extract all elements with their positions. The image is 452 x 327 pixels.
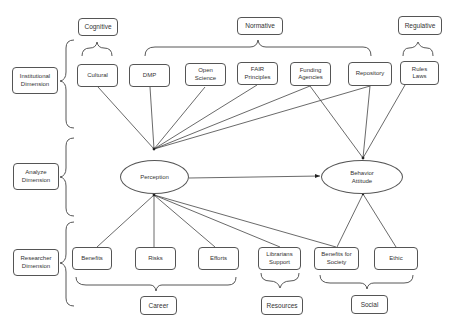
edge-perception-librarians xyxy=(154,195,280,247)
edge-perception-efforts xyxy=(154,195,215,247)
regulative-category: Regulative xyxy=(398,16,442,35)
behavior-attitude-ellipse: Behavior Attitude xyxy=(321,160,403,194)
ethic-box: Ethic xyxy=(374,247,418,270)
perception-ellipse: Perception xyxy=(120,160,189,194)
edge-perception-benefits-society xyxy=(154,195,336,247)
researcher-dimension-box: Researcher Dimension xyxy=(13,249,59,276)
brace-normative xyxy=(145,40,371,56)
repository-box: Repository xyxy=(348,62,392,86)
brace-institutional xyxy=(60,40,74,128)
research-model-diagram: Institutional Dimension Analyze Dimensio… xyxy=(0,0,452,327)
cognitive-category: Cognitive xyxy=(78,18,118,36)
edge-dmp-perception xyxy=(150,87,154,149)
open-science-box: Open Science xyxy=(185,63,226,86)
resources-category: Resources xyxy=(261,296,303,315)
risks-box: Risks xyxy=(135,247,176,270)
brace-career xyxy=(76,277,236,291)
analyze-dimension-box: Analyze Dimension xyxy=(13,163,59,190)
career-category: Career xyxy=(140,296,177,315)
institutional-dimension-box: Institutional Dimension xyxy=(12,67,58,94)
edge-cultural-perception xyxy=(98,87,154,149)
fair-principles-box: FAIR Principles xyxy=(237,62,278,85)
cultural-box: Cultural xyxy=(77,64,118,87)
brace-resources xyxy=(261,273,299,288)
edge-fair-perception xyxy=(154,85,257,149)
edge-repository-perception xyxy=(154,86,370,149)
brace-regulative xyxy=(403,42,433,56)
normative-category: Normative xyxy=(237,17,283,35)
brace-cognitive xyxy=(82,42,112,56)
edge-funding-perception xyxy=(154,86,310,149)
edge-perception-benefits xyxy=(97,195,154,247)
edge-open-science-perception xyxy=(154,87,205,149)
benefits-box: Benefits xyxy=(72,247,112,270)
funding-agencies-box: Funding Agencies xyxy=(290,62,331,86)
edge-funding-behavior xyxy=(310,86,363,158)
benefits-for-society-box: Benefits for Society xyxy=(314,247,359,270)
edge-behavior-ethic xyxy=(363,194,396,247)
social-category: Social xyxy=(351,295,388,314)
librarians-support-box: Librarians Support xyxy=(258,247,301,270)
edge-perception-behavior xyxy=(189,176,320,178)
brace-social xyxy=(320,275,413,289)
dmp-box: DMP xyxy=(129,64,170,87)
rules-laws-box: Rules Laws xyxy=(400,61,439,85)
brace-analyze xyxy=(60,138,74,216)
efforts-box: Efforts xyxy=(198,247,239,270)
edge-behavior-benefits-society xyxy=(337,194,363,247)
